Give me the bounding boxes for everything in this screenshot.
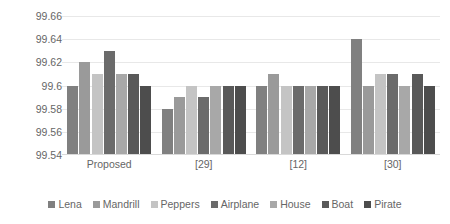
y-axis-tick-label: 99.6 bbox=[6, 80, 62, 91]
bar bbox=[174, 97, 185, 155]
bar-chart: 99.6699.6499.6299.699.5899.5699.54 Propo… bbox=[0, 0, 450, 224]
legend-label: Lena bbox=[58, 198, 81, 210]
legend-label: Mandrill bbox=[103, 198, 140, 210]
x-axis-category-label: [12] bbox=[251, 158, 346, 170]
legend-item[interactable]: Lena bbox=[48, 198, 81, 210]
y-axis-tick-label: 99.64 bbox=[6, 34, 62, 45]
y-axis-tick-label: 99.56 bbox=[6, 127, 62, 138]
bar bbox=[67, 86, 78, 156]
chart-legend: LenaMandrillPeppersAirplaneHouseBoatPira… bbox=[0, 198, 450, 210]
legend-item[interactable]: House bbox=[270, 198, 310, 210]
bar bbox=[351, 39, 362, 155]
bar bbox=[104, 51, 115, 155]
bar bbox=[128, 74, 139, 155]
y-axis-tick-label: 99.58 bbox=[6, 103, 62, 114]
bar bbox=[92, 74, 103, 155]
y-axis-tick-label: 99.66 bbox=[6, 11, 62, 22]
legend-label: House bbox=[280, 198, 310, 210]
legend-item[interactable]: Boat bbox=[322, 198, 354, 210]
legend-label: Pirate bbox=[374, 198, 401, 210]
bar-group bbox=[251, 16, 346, 155]
legend-item[interactable]: Airplane bbox=[211, 198, 260, 210]
bar bbox=[363, 86, 374, 156]
plot-area bbox=[62, 16, 440, 155]
bar bbox=[399, 86, 410, 156]
bar bbox=[268, 74, 279, 155]
bar bbox=[412, 74, 423, 155]
bar bbox=[293, 86, 304, 156]
bar bbox=[79, 62, 90, 155]
bar-group bbox=[157, 16, 252, 155]
legend-swatch-icon bbox=[151, 201, 158, 208]
bar-series-layer bbox=[62, 16, 440, 155]
legend-item[interactable]: Mandrill bbox=[93, 198, 140, 210]
legend-swatch-icon bbox=[48, 201, 55, 208]
bar-group bbox=[346, 16, 441, 155]
x-axis-category-label: [29] bbox=[157, 158, 252, 170]
bar bbox=[281, 86, 292, 156]
x-axis-category-label: [30] bbox=[346, 158, 441, 170]
bar bbox=[305, 86, 316, 156]
bar-group bbox=[62, 16, 157, 155]
bar bbox=[116, 74, 127, 155]
legend-swatch-icon bbox=[364, 201, 371, 208]
x-axis-category-label: Proposed bbox=[62, 158, 157, 170]
legend-swatch-icon bbox=[322, 201, 329, 208]
legend-label: Boat bbox=[332, 198, 354, 210]
bar bbox=[375, 74, 386, 155]
bar bbox=[256, 86, 267, 156]
legend-swatch-icon bbox=[211, 201, 218, 208]
legend-item[interactable]: Peppers bbox=[151, 198, 200, 210]
bar bbox=[186, 86, 197, 156]
bar bbox=[162, 109, 173, 155]
legend-item[interactable]: Pirate bbox=[364, 198, 401, 210]
legend-swatch-icon bbox=[270, 201, 277, 208]
bar bbox=[235, 86, 246, 156]
bar bbox=[140, 86, 151, 156]
x-axis-line bbox=[62, 154, 440, 155]
bar bbox=[387, 74, 398, 155]
bar bbox=[210, 86, 221, 156]
y-axis-tick-label: 99.62 bbox=[6, 57, 62, 68]
legend-swatch-icon bbox=[93, 201, 100, 208]
bar bbox=[424, 86, 435, 156]
x-axis-labels: Proposed[29][12][30] bbox=[62, 158, 440, 170]
legend-label: Airplane bbox=[221, 198, 260, 210]
bar bbox=[317, 86, 328, 156]
legend-label: Peppers bbox=[161, 198, 200, 210]
y-axis-tick-label: 99.54 bbox=[6, 150, 62, 161]
bar bbox=[329, 86, 340, 156]
bar bbox=[198, 97, 209, 155]
bar bbox=[223, 86, 234, 156]
